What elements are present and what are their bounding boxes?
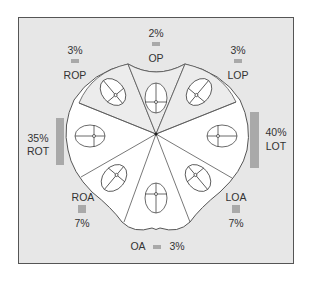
op-label: OP — [145, 52, 167, 64]
rot-bar — [56, 118, 64, 165]
loa-percent: 7% — [225, 217, 247, 229]
rop-bar — [71, 59, 79, 63]
center-point — [154, 132, 157, 135]
head-icon-rot — [75, 125, 105, 147]
oa-label: OA — [128, 240, 148, 252]
lop-percent: 3% — [227, 44, 249, 56]
oa-percent: 3% — [167, 240, 187, 252]
op-bar — [152, 42, 160, 46]
rot-percent: 35% — [25, 132, 51, 144]
lot-label: LOT — [263, 140, 289, 152]
lot-percent: 40% — [263, 126, 289, 138]
loa-label: LOA — [222, 191, 250, 203]
roa-bar — [78, 205, 86, 213]
roa-label: ROA — [68, 191, 98, 203]
rop-label: ROP — [60, 69, 90, 81]
loa-bar — [232, 205, 240, 213]
head-icon-op — [145, 83, 167, 113]
head-icon-oa — [145, 183, 167, 213]
op-percent: 2% — [145, 27, 167, 39]
lop-label: LOP — [224, 69, 252, 81]
rop-percent: 3% — [64, 44, 86, 56]
rot-label: ROT — [25, 145, 51, 157]
head-icon-lot — [207, 125, 237, 147]
lop-bar — [234, 59, 242, 63]
roa-percent: 7% — [71, 217, 93, 229]
lot-bar — [250, 112, 259, 168]
oa-bar — [153, 245, 161, 249]
